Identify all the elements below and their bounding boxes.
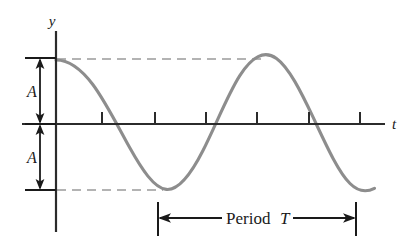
y-axis-label: y (47, 13, 56, 29)
period-label: Period (226, 209, 271, 228)
t-axis-ticks (102, 112, 360, 124)
waveform-curve-group (56, 55, 375, 191)
figure-canvas: A A Period T y t (0, 0, 411, 248)
t-axis-label: t (392, 116, 397, 132)
amplitude-upper-label: A (26, 83, 37, 100)
period-bracket-group: Period T (158, 202, 356, 236)
amplitude-lower-label: A (26, 149, 37, 166)
sine-curve (56, 55, 375, 191)
period-symbol: T (280, 209, 291, 228)
sine-wave-figure: A A Period T y t (0, 0, 411, 248)
amplitude-bracket-group: A A (25, 58, 56, 190)
axes-group (22, 31, 385, 232)
